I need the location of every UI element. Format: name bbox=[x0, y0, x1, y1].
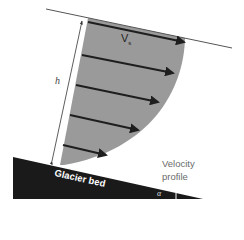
thickness-label: h bbox=[55, 75, 60, 86]
velocity-profile-label-line2: profile bbox=[162, 170, 195, 183]
slope-angle-label: α bbox=[157, 189, 161, 198]
surface-velocity-label: Vs bbox=[121, 32, 131, 46]
velocity-profile-label: Velocity profile bbox=[162, 157, 195, 183]
velocity-profile-label-line1: Velocity bbox=[162, 157, 195, 170]
surface-velocity-subscript: s bbox=[128, 40, 131, 46]
